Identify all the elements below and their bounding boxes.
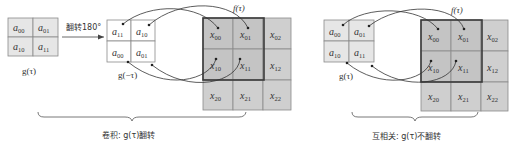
brace-left [38, 112, 246, 121]
caption-convolution: 卷积: g(τ)翻转 [102, 130, 155, 140]
input-right-grid: x00 x01 x02 x10 x11 x12 x20 x21 x22 [421, 20, 508, 111]
kernel-flipped-grid: a11 a10 a00 a01 [107, 20, 155, 62]
input-left-grid: x00 x01 x02 x10 x11 x12 x20 x21 x22 [203, 18, 291, 110]
kernel-flipped-label: g(−τ) [118, 70, 137, 80]
caption-correlation: 互相关: g(τ)不翻转 [372, 131, 441, 141]
flip-arrow [62, 35, 104, 40]
kernel-original-grid: a00 a01 a10 a11 [8, 18, 58, 56]
input-left-label: f(τ) [233, 3, 245, 13]
kernel-right-label: g(τ) [339, 71, 353, 81]
flip-label: 翻转180° [66, 22, 101, 32]
input-right-label: f(τ) [451, 5, 463, 15]
kernel-right-grid: a00 a01 a10 a11 [324, 20, 374, 62]
convolution-vs-correlation-diagram: a00 a01 a10 a11 g(τ) 翻转180° a11 a10 a00 … [0, 0, 512, 151]
kernel-original-label: g(τ) [22, 66, 36, 76]
brace-right [352, 112, 478, 121]
